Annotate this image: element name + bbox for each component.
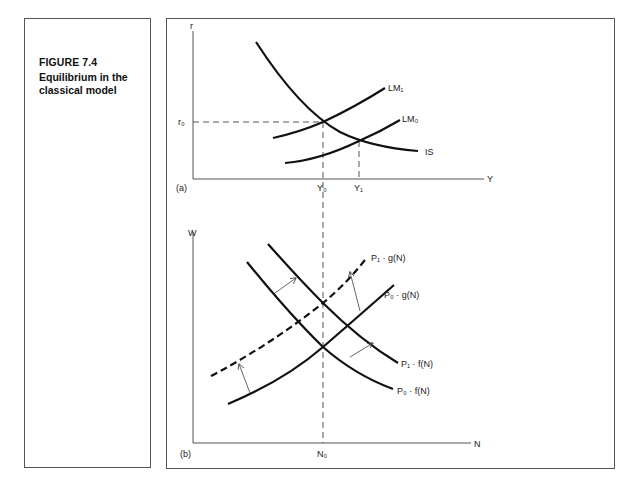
p0f-curve	[247, 262, 393, 389]
shift-arrow-f-lower	[350, 343, 373, 357]
shift-arrow-f-upper	[275, 278, 296, 293]
lm1-curve	[273, 88, 385, 138]
w-axis-label: W	[188, 228, 197, 238]
p0f-label: P₀ · f(N)	[397, 386, 430, 396]
y1-label: Y₁	[354, 183, 363, 193]
p1f-label: P₁ · f(N)	[401, 359, 433, 369]
n-axis-label: N	[474, 439, 481, 449]
r-axis-label: r	[190, 21, 193, 31]
y-axis-label: Y	[487, 174, 493, 184]
panel-b-label: (b)	[180, 449, 191, 459]
r0-label: r₀	[178, 117, 185, 127]
is-curve	[256, 42, 418, 151]
panel-b: W N (b) N₀ P₁ · g(N) P₀ · g(N) P₁ · f(N)…	[180, 228, 481, 459]
lm1-label: LM₁	[388, 83, 404, 93]
panel-a: r Y (a) r₀ Y₀ Y₁ LM₁ LM₀ IS	[176, 21, 493, 443]
y0-label: Y₀	[317, 183, 327, 193]
shift-arrow-g-right	[350, 272, 360, 311]
n0-label: N₀	[317, 449, 327, 459]
lm0-label: LM₀	[402, 114, 419, 124]
shift-arrow-g-left	[239, 364, 250, 393]
p1g-curve	[211, 260, 365, 376]
is-label: IS	[425, 147, 434, 157]
figure-diagram: r Y (a) r₀ Y₀ Y₁ LM₁ LM₀ IS W N (b) N₀ P…	[0, 0, 635, 493]
p1g-label: P₁ · g(N)	[371, 253, 406, 263]
p0g-label: P₀ · g(N)	[384, 290, 419, 300]
lm0-curve	[285, 120, 400, 163]
panel-a-label: (a)	[176, 183, 187, 193]
